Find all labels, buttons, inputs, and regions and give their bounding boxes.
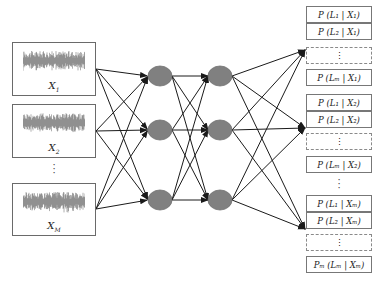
input-signal-box-xm: XM [12, 183, 96, 236]
output-probability-cell: P (L₂ | Xₘ) [306, 212, 372, 229]
output-ellipsis-row: ⋮ [306, 133, 372, 150]
input-label-x2: X2 [13, 142, 95, 155]
input-label-xm: XM [13, 220, 95, 233]
edge-input-hidden1 [96, 200, 147, 209]
waveform-icon [23, 191, 85, 213]
output-probability-cell: P (L₁ | X₁) [306, 6, 372, 23]
edge-input-hidden1 [96, 77, 147, 131]
edge-hidden2-output [232, 76, 305, 229]
output-probability-cell: P (Lₘ | X₂) [306, 156, 372, 173]
hidden-node-l1-n2 [148, 120, 172, 140]
output-probability-cell: P (L₁ | X₂) [306, 94, 372, 111]
edge-input-hidden1 [96, 69, 147, 129]
output-ellipsis-1: ··· [334, 178, 344, 190]
hidden-node-l2-n2 [208, 120, 232, 140]
input-label-x1: X1 [13, 80, 95, 93]
output-ellipsis-row: ⋮ [306, 47, 372, 64]
waveform-icon [23, 50, 85, 72]
hidden-node-l2-n3 [208, 190, 232, 210]
input-signal-box-x2: X2 [12, 104, 96, 158]
output-probability-cell: Pₘ (Lₘ | Xₘ) [306, 256, 372, 273]
input-signal-box-x1: X1 [12, 42, 96, 96]
waveform-icon [23, 112, 85, 134]
input-ellipsis: ··· [49, 163, 59, 175]
edge-input-hidden1 [96, 130, 147, 131]
output-probability-cell: P (Lₘ | X₁) [306, 69, 372, 86]
hidden-node-l2-n1 [208, 66, 232, 86]
neural-network-diagram: X1 X2 ··· XM P (L₁ | X₁)P (L₂ | X₁)⋮P (L… [0, 0, 379, 283]
output-probability-cell: P (L₁ | Xₘ) [306, 195, 372, 212]
edge-hidden2-output [232, 50, 305, 130]
edge-hidden2-output [232, 128, 305, 200]
output-ellipsis-row: ⋮ [306, 234, 372, 251]
edge-input-hidden1 [96, 69, 147, 76]
hidden-node-l1-n3 [148, 190, 172, 210]
edge-hidden2-output [232, 128, 305, 130]
edge-input-hidden1 [96, 69, 148, 199]
edge-hidden2-output [232, 76, 305, 128]
output-probability-cell: P (L₂ | X₂) [306, 111, 372, 128]
output-probability-cell: P (L₂ | X₁) [306, 23, 372, 40]
hidden-node-l1-n1 [148, 66, 172, 86]
